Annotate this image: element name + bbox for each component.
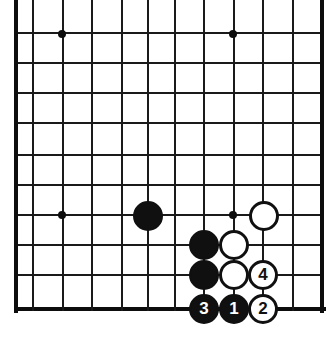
grid-line-vertical	[91, 0, 93, 311]
stone-move-number: 3	[199, 300, 208, 317]
stone-move-number: 1	[229, 300, 238, 317]
stone-white-move-2[interactable]: 2	[248, 294, 278, 324]
grid-line-vertical	[121, 0, 123, 311]
stone-move-number: 2	[258, 300, 267, 317]
grid-line-vertical	[292, 0, 294, 311]
star-point-left-middle	[58, 211, 66, 219]
go-board-surface[interactable]: 4312	[0, 0, 332, 356]
board-right-border	[320, 0, 324, 313]
stone-black-move-1[interactable]: 1	[219, 294, 249, 324]
stone-black-wall-upper[interactable]	[189, 230, 219, 260]
grid-line-vertical	[62, 0, 64, 311]
grid-line-vertical	[147, 0, 149, 311]
stone-black-move-3[interactable]: 3	[189, 294, 219, 324]
star-point-upper-right	[229, 30, 237, 38]
grid-line-vertical	[174, 0, 176, 311]
star-point-upper-left	[58, 30, 66, 38]
stone-white-wall-lower[interactable]	[219, 260, 249, 290]
stone-move-number: 4	[258, 266, 267, 283]
stone-white-corner-stone[interactable]	[249, 201, 279, 231]
grid-line-vertical	[32, 0, 34, 311]
stone-black-approach-stone[interactable]	[133, 201, 163, 231]
go-diagram-figure: 4312	[0, 0, 332, 356]
star-point-right-middle	[229, 211, 237, 219]
stone-white-move-4[interactable]: 4	[248, 260, 278, 290]
board-left-border	[14, 0, 18, 313]
stone-black-wall-lower[interactable]	[189, 260, 219, 290]
stone-white-wall-upper[interactable]	[219, 230, 249, 260]
